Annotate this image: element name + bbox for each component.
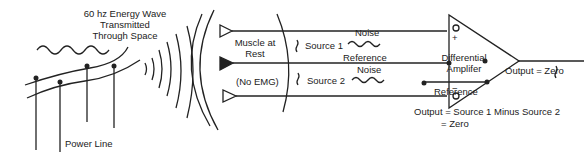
- wave-arc-5: [176, 34, 181, 108]
- source2-label: Source 2: [307, 75, 345, 86]
- muscle-at-rest-label: Muscle at Rest: [225, 37, 285, 59]
- emg-differential-amplifier-diagram: 60 hz Energy Wave Transmitted Through Sp…: [0, 0, 584, 157]
- energy-wave-title: 60 hz Energy Wave Transmitted Through Sp…: [55, 8, 195, 41]
- noise-wave-2-icon: [352, 78, 384, 83]
- power-line-label: Power Line: [65, 138, 113, 149]
- wave-arc-4: [167, 42, 171, 96]
- equation-line1: Output = Source 1 Minus Source 2: [414, 106, 560, 117]
- electrode-source1-icon: [220, 25, 232, 37]
- sine-wave-icon: [37, 46, 109, 54]
- reference-mid-label: Reference: [343, 52, 387, 63]
- wave-arc-2: [152, 58, 154, 80]
- reference-output-label: Reference: [434, 86, 478, 97]
- differential-amplifier-label: Differential Amplifer: [392, 52, 512, 74]
- source1-label: Source 1: [305, 40, 343, 51]
- equation-line2: = Zero: [441, 118, 469, 129]
- wave-arc-3: [159, 50, 162, 88]
- noise2-label: Noise: [357, 64, 381, 75]
- noise1-label: Noise: [355, 27, 379, 38]
- output-zero-label: Output = Zero: [505, 65, 564, 76]
- plus-sign: +: [452, 32, 458, 43]
- wave-arc-1: [145, 63, 147, 75]
- noise-wave-1-icon: [348, 42, 380, 47]
- electrode-source2-icon: [223, 90, 236, 102]
- no-emg-label: (No EMG): [236, 76, 279, 87]
